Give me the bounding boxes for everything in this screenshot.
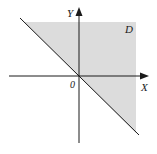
origin-label: 0 bbox=[70, 79, 75, 90]
y-axis-label: Y bbox=[67, 7, 75, 19]
region-label: D bbox=[124, 23, 133, 35]
region-diagram: Y X 0 D bbox=[0, 0, 157, 154]
x-axis-arrow-icon bbox=[140, 73, 149, 80]
y-axis-arrow-icon bbox=[76, 7, 83, 16]
x-axis-label: X bbox=[140, 81, 149, 93]
